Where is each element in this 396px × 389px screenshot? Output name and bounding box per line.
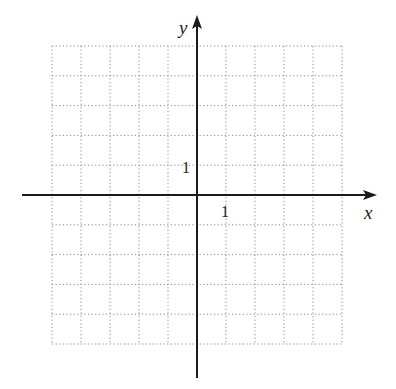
x-axis-label: x: [363, 202, 373, 223]
x-tick-label: 1: [221, 203, 229, 220]
y-axis-label: y: [177, 17, 188, 38]
y-tick-label: 1: [182, 159, 190, 176]
coordinate-plane: y x 1 1: [0, 0, 396, 389]
